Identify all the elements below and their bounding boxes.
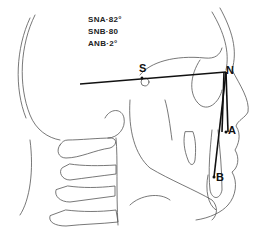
cranial-base [140, 48, 222, 75]
ear-outline [105, 111, 124, 139]
sn-line [80, 72, 226, 84]
hyoid [130, 195, 170, 205]
skull-outline [22, 15, 60, 140]
landmark-s-label: S [139, 62, 146, 74]
mandible-outline [130, 100, 217, 220]
landmark-b-label: B [216, 171, 224, 183]
vertebra-c2 [58, 138, 116, 158]
vertebra-c3 [60, 164, 116, 180]
anb-measurement: ANB·2° [88, 39, 117, 49]
orbit-outline [192, 60, 222, 107]
sna-measurement: SNA·82° [88, 15, 122, 25]
na-line [226, 72, 228, 132]
snb-measurement: SNB·80 [88, 27, 118, 37]
vertebra-c4 [56, 186, 115, 202]
neck-outline [20, 140, 32, 215]
soft-tissue-inner [212, 12, 227, 70]
cephalometric-diagram [0, 0, 269, 238]
point-s [141, 77, 144, 80]
upper-molar [184, 132, 196, 165]
ramus-outline [165, 100, 172, 140]
vertebra-c5 [50, 210, 118, 226]
nb-line-2 [222, 72, 224, 132]
landmark-n-label: N [226, 64, 234, 76]
lower-incisor [207, 175, 216, 210]
landmark-a-label: A [228, 124, 236, 136]
